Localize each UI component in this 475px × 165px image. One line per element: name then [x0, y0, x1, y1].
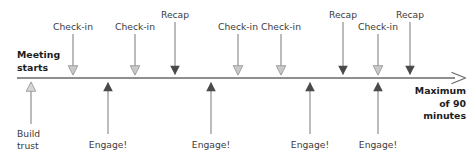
maximum-line2: of 90: [415, 98, 466, 111]
bottom-arrow-group: [31, 83, 378, 135]
meeting-starts-label: Meeting starts: [17, 49, 60, 74]
bottom-marker-label-line: Engage!: [192, 139, 230, 151]
maximum-line3: minutes: [415, 110, 466, 123]
bottom-marker-label-line: Build: [17, 128, 40, 140]
bottom-marker-label-2: Engage!: [192, 139, 230, 151]
bottom-marker-label-3: Engage!: [291, 139, 329, 151]
maximum-line1: Maximum: [415, 85, 466, 98]
top-marker-label-3: Check-in: [218, 21, 258, 33]
top-marker-label-5: Recap: [329, 9, 357, 21]
top-marker-label-0: Check-in: [53, 21, 93, 33]
meeting-starts-line1: Meeting: [17, 49, 60, 62]
meeting-timeline-diagram: Check-inCheck-inRecapCheck-inCheck-inRec…: [0, 0, 475, 165]
meeting-starts-line2: starts: [17, 62, 60, 75]
bottom-marker-label-1: Engage!: [89, 139, 127, 151]
bottom-marker-label-line: Engage!: [291, 139, 329, 151]
timeline-axis: [17, 73, 466, 84]
bottom-marker-label-line: Engage!: [359, 139, 397, 151]
top-marker-label-4: Check-in: [261, 21, 301, 33]
top-marker-label-6: Check-in: [358, 21, 398, 33]
maximum-duration-label: Maximum of 90 minutes: [415, 85, 466, 123]
top-marker-label-2: Recap: [161, 9, 189, 21]
top-marker-label-7: Recap: [396, 9, 424, 21]
bottom-marker-label-0: Buildtrust: [17, 128, 40, 151]
top-marker-label-1: Check-in: [115, 21, 155, 33]
bottom-marker-label-4: Engage!: [359, 139, 397, 151]
bottom-marker-label-line: trust: [17, 140, 40, 152]
bottom-marker-label-line: Engage!: [89, 139, 127, 151]
